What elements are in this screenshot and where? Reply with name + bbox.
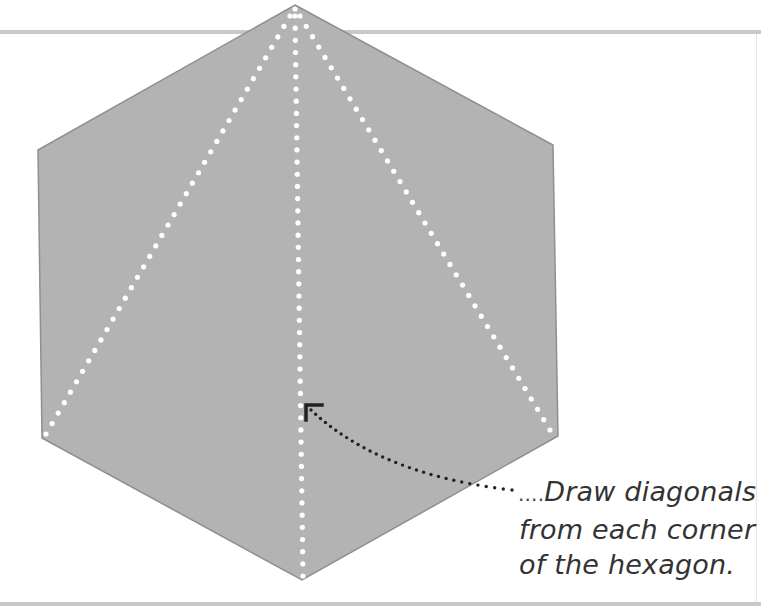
diagonal-dot — [447, 262, 452, 267]
pointer-dot — [356, 443, 359, 446]
diagonal-dot — [208, 149, 213, 154]
diagonal-dot — [92, 348, 97, 353]
diagonal-dot — [298, 439, 303, 444]
diagonal-dot — [297, 366, 302, 371]
diagonal-dot — [294, 123, 299, 128]
pointer-dot — [444, 477, 447, 480]
pointer-dot — [319, 417, 322, 420]
diagonal-dot — [129, 285, 134, 290]
diagonal-dot — [293, 26, 298, 31]
diagonal-dot — [454, 272, 459, 277]
diagonal-dot — [117, 306, 122, 311]
diagonal-dot — [510, 365, 515, 370]
diagonal-dot — [294, 159, 299, 164]
diagonal-dot — [391, 169, 396, 174]
diagonal-dot — [257, 66, 262, 71]
diagonal-dot — [178, 202, 183, 207]
diagonal-dot — [300, 525, 305, 530]
diagonal-dot — [281, 24, 286, 29]
diagonal-dot — [98, 337, 103, 342]
diagonal-dot — [504, 355, 509, 360]
diagonal-dot — [299, 500, 304, 505]
pointer-dot — [368, 449, 371, 452]
diagonal-dot — [522, 386, 527, 391]
diagonal-dot — [298, 379, 303, 384]
diagonal-dot — [541, 417, 546, 422]
diagonal-dot — [516, 376, 521, 381]
diagonal-dot — [153, 243, 158, 248]
diagonal-dot — [80, 369, 85, 374]
diagonal-dot — [165, 222, 170, 227]
pointer-dot — [345, 436, 348, 439]
diagonal-dot — [62, 400, 67, 405]
diagonal-dot — [300, 561, 305, 566]
diagonal-dot — [68, 390, 73, 395]
pointer-dot — [502, 487, 505, 490]
apex-dot — [292, 6, 297, 11]
diagonal-dot — [404, 189, 409, 194]
diagonal-dot — [295, 220, 300, 225]
diagonal-dot — [293, 38, 298, 43]
diagonal-dot — [466, 293, 471, 298]
diagonal-dot — [310, 34, 315, 39]
diagonal-dot — [239, 97, 244, 102]
diagonal-dot — [294, 135, 299, 140]
caption-line-1: ....Draw diagonals — [518, 474, 756, 512]
diagonal-dot — [251, 76, 256, 81]
diagonal-dot — [104, 327, 109, 332]
diagonal-dot — [275, 34, 280, 39]
diagonal-dot — [293, 50, 298, 55]
diagonal-dot — [366, 127, 371, 132]
diagonal-dot — [316, 44, 321, 49]
diagonal-dot — [416, 210, 421, 215]
diagonal-dot — [294, 111, 299, 116]
diagonal-dot — [111, 316, 116, 321]
diagonal-dot — [295, 184, 300, 189]
diagonal-dot — [226, 118, 231, 123]
caption-leader: .... — [518, 482, 544, 506]
pointer-dot — [422, 471, 425, 474]
instruction-caption: ....Draw diagonals from each corner of t… — [518, 474, 756, 582]
diagonal-dot — [293, 62, 298, 67]
pointer-dot — [510, 488, 513, 491]
diagonal-dot — [547, 427, 552, 432]
diagonal-dot — [269, 45, 274, 50]
diagonal-dot — [141, 264, 146, 269]
diagonal-dot — [535, 407, 540, 412]
diagonal-dot — [298, 427, 303, 432]
diagonal-dot — [296, 281, 301, 286]
diagonal-dot — [245, 87, 250, 92]
diagonal-dot — [297, 342, 302, 347]
pointer-dot — [394, 461, 397, 464]
diagonal-dot — [295, 172, 300, 177]
pointer-dot — [452, 479, 455, 482]
caption-line-2: from each corner — [518, 512, 756, 547]
pointer-dot — [339, 432, 342, 435]
diagonal-dot — [56, 411, 61, 416]
diagonal-dot — [491, 334, 496, 339]
diagonal-dot — [322, 55, 327, 60]
diagonal-dot — [294, 99, 299, 104]
pointer-dot — [468, 482, 471, 485]
pointer-dot — [437, 475, 440, 478]
diagonal-dot — [435, 241, 440, 246]
diagonal-dot — [294, 147, 299, 152]
pointer-dot — [314, 413, 317, 416]
diagonal-dot — [233, 107, 238, 112]
pointer-dot — [362, 446, 365, 449]
pointer-dot — [381, 455, 384, 458]
diagonal-dot — [295, 196, 300, 201]
pointer-dot — [351, 439, 354, 442]
diagonal-dot — [292, 13, 297, 18]
diagonal-dot — [300, 537, 305, 542]
diagonal-dot — [298, 403, 303, 408]
diagonal-dot — [123, 296, 128, 301]
diagonal-dot — [329, 65, 334, 70]
diagonal-dot — [297, 318, 302, 323]
diagonal-dot — [287, 13, 292, 18]
diagonal-dot — [422, 220, 427, 225]
diagonal-dot — [263, 55, 268, 60]
diagonal-dot — [86, 358, 91, 363]
diagonal-dot — [50, 421, 55, 426]
diagonal-dot — [298, 391, 303, 396]
